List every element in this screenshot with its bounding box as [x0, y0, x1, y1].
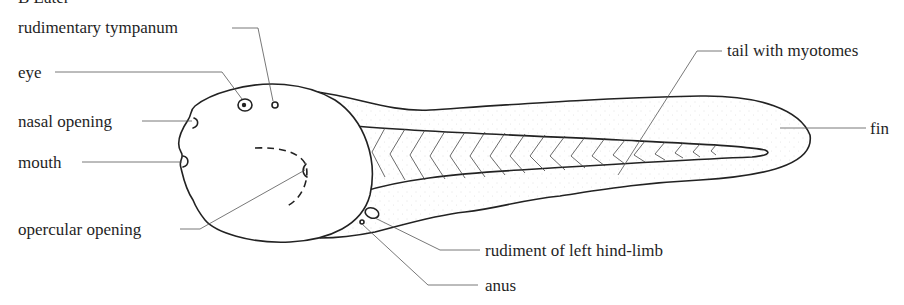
label-mouth: mouth — [18, 154, 61, 171]
fin-outline — [318, 92, 810, 238]
label-fin: fin — [870, 120, 889, 137]
label-eye: eye — [18, 64, 42, 81]
label-opercular-opening: opercular opening — [18, 221, 141, 238]
tadpole-diagram: B Later — [0, 0, 904, 305]
label-rudiment-hind-limb: rudiment of left hind-limb — [485, 242, 663, 259]
label-anus: anus — [485, 277, 516, 294]
label-nasal-opening: nasal opening — [18, 113, 112, 130]
label-tail-with-myotomes: tail with myotomes — [727, 42, 858, 59]
label-rudimentary-tympanum: rudimentary tympanum — [18, 19, 178, 36]
leader-anus — [362, 224, 478, 285]
